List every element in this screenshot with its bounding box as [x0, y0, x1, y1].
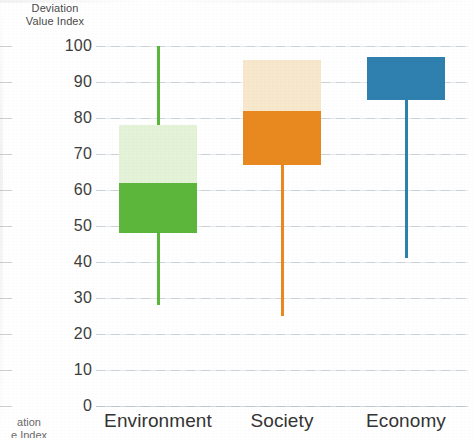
y-axis-title-clipped: ation e Index — [0, 416, 72, 438]
y-tick-label-10: 10 — [44, 361, 92, 379]
box-environment[interactable] — [119, 125, 197, 233]
box-lower-segment-society — [243, 111, 321, 165]
box-society[interactable] — [243, 60, 321, 164]
y-axis-title-clipped-line-1: ation — [0, 416, 72, 429]
scan-artifact-tick-60 — [0, 190, 12, 191]
scan-artifact-tick-50 — [0, 226, 12, 227]
box-upper-segment-economy — [367, 57, 445, 100]
x-label-environment: Environment — [104, 410, 212, 432]
scan-artifact-tick-100 — [0, 46, 12, 47]
gridline-0 — [96, 406, 468, 407]
x-label-society: Society — [250, 410, 313, 432]
y-tick-label-60: 60 — [44, 181, 92, 199]
y-tick-label-30: 30 — [44, 289, 92, 307]
series-economy[interactable] — [344, 46, 468, 406]
y-tick-label-50: 50 — [44, 217, 92, 235]
y-tick-label-70: 70 — [44, 145, 92, 163]
y-axis-title: Deviation Value Index — [12, 2, 98, 28]
scan-artifact-tick-70 — [0, 154, 12, 155]
scan-artifact-tick-80 — [0, 118, 12, 119]
y-axis-title-line-1: Deviation — [12, 2, 98, 15]
scan-artifact-tick-90 — [0, 82, 12, 83]
scan-artifact-tick-0 — [0, 406, 12, 407]
y-tick-label-100: 100 — [44, 37, 92, 55]
box-upper-segment-society — [243, 60, 321, 110]
chart-root: Deviation Value Index ation e Index 1009… — [0, 0, 475, 440]
box-upper-segment-environment — [119, 125, 197, 183]
box-lower-segment-environment — [119, 183, 197, 233]
box-economy[interactable] — [367, 57, 445, 100]
series-environment[interactable] — [96, 46, 220, 406]
x-label-economy: Economy — [366, 410, 446, 432]
y-tick-label-20: 20 — [44, 325, 92, 343]
series-society[interactable] — [220, 46, 344, 406]
y-tick-label-80: 80 — [44, 109, 92, 127]
x-axis-category-labels: EnvironmentSocietyEconomy — [96, 410, 468, 440]
y-tick-label-90: 90 — [44, 73, 92, 91]
y-tick-label-0: 0 — [44, 397, 92, 415]
y-tick-label-40: 40 — [44, 253, 92, 271]
y-axis-title-line-2: Value Index — [12, 15, 98, 28]
scan-artifact-tick-30 — [0, 298, 12, 299]
scan-artifact-tick-10 — [0, 370, 12, 371]
plot-area — [96, 46, 468, 406]
scan-artifact-tick-40 — [0, 262, 12, 263]
y-axis-title-clipped-line-2: e Index — [0, 429, 72, 438]
scan-artifact-tick-20 — [0, 334, 12, 335]
